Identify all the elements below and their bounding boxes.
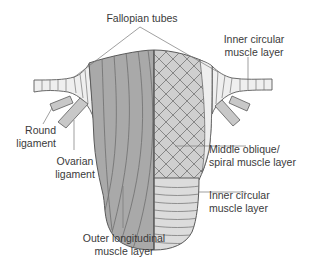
label-text: Inner circular bbox=[214, 33, 294, 46]
leader-round-ligament bbox=[43, 108, 52, 124]
label-fallopian-tubes: Fallopian tubes bbox=[98, 12, 186, 25]
label-text: spiral muscle layer bbox=[209, 156, 296, 169]
label-inner-circular-bottom: Inner circular muscle layer bbox=[209, 189, 270, 214]
label-round-ligament: Round ligament bbox=[4, 124, 56, 149]
label-inner-circular-top: Inner circular muscle layer bbox=[214, 33, 294, 58]
hatch-line bbox=[294, 40, 309, 190]
label-text: Outer longitudinal bbox=[76, 232, 172, 245]
label-text: Round bbox=[4, 124, 56, 137]
outer-longitudinal-layer bbox=[89, 50, 154, 252]
label-text: muscle layer bbox=[209, 202, 270, 215]
label-text: Inner circular bbox=[209, 189, 270, 202]
label-text: Ovarian bbox=[50, 155, 100, 168]
left-round-ligament bbox=[50, 96, 73, 111]
label-text: ligament bbox=[50, 168, 100, 181]
label-text: muscle layer bbox=[76, 245, 172, 258]
label-text: ligament bbox=[4, 137, 56, 150]
left-fallopian-tube bbox=[34, 64, 94, 120]
label-text: Middle oblique/ bbox=[209, 143, 296, 156]
right-round-ligament bbox=[229, 96, 250, 111]
hatch-line bbox=[294, 40, 309, 190]
label-text: Fallopian tubes bbox=[98, 12, 186, 25]
label-ovarian-ligament: Ovarian ligament bbox=[50, 155, 100, 180]
label-outer-longitudinal: Outer longitudinal muscle layer bbox=[76, 232, 172, 257]
label-text: muscle layer bbox=[214, 46, 294, 59]
label-middle-oblique: Middle oblique/ spiral muscle layer bbox=[209, 143, 296, 168]
